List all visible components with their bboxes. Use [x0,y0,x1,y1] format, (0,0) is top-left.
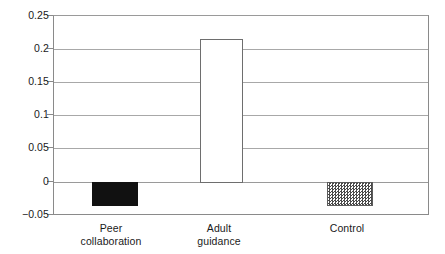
bar-chart: 0.25 0.2 0.15 0.1 0.05 0 −0.05 Peer coll… [0,0,445,254]
ytick-label-0.15: 0.15 [28,76,49,87]
bar-control [327,182,373,206]
ytick-label--0.05: −0.05 [22,209,49,220]
ytick-label-0.05: 0.05 [28,142,49,153]
xtick-label-control: Control [292,222,402,235]
bar-adult-guidance [200,39,243,183]
ytick-label-0.2: 0.2 [34,43,49,54]
plot-area [53,15,429,215]
ytick-label-0: 0 [43,176,49,187]
ytick-label-0.25: 0.25 [28,10,49,21]
ytick-label-0.1: 0.1 [34,109,49,120]
xtick-label-peer-collaboration: Peer collaboration [54,222,168,248]
xtick-label-adult-guidance: Adult guidance [164,222,274,248]
bar-peer-collaboration [92,182,138,206]
